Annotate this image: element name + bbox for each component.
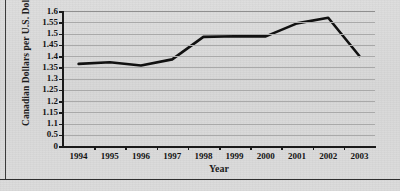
- gridline: [63, 45, 375, 46]
- y-axis-tick-label: 1.35: [18, 63, 58, 72]
- gridline: [63, 34, 375, 35]
- y-axis-tick: [59, 56, 63, 58]
- gridline: [63, 22, 375, 23]
- x-axis-tick: [313, 146, 315, 150]
- y-axis-tick: [59, 135, 63, 137]
- gridline: [63, 124, 375, 125]
- y-axis-tick-label: 1.55: [18, 18, 58, 27]
- gridline: [63, 135, 375, 136]
- y-axis-tick-label: 1.1: [18, 119, 58, 128]
- y-axis-tick: [59, 146, 63, 148]
- plot-area: [63, 11, 375, 146]
- chart-figure: Canadian Dollars per U.S. Dollar 1.61.55…: [0, 0, 400, 191]
- y-axis-tick: [59, 45, 63, 47]
- x-axis-tick: [125, 146, 127, 150]
- x-axis-tick: [188, 146, 190, 150]
- y-axis-tick-label: 1.3: [18, 74, 58, 83]
- y-axis-tick: [59, 101, 63, 103]
- x-axis-tick: [344, 146, 346, 150]
- y-axis-tick-label: 1.6: [18, 7, 58, 16]
- x-axis-title: Year: [63, 163, 375, 174]
- y-axis-tick: [59, 79, 63, 81]
- x-axis-tick: [281, 146, 283, 150]
- y-axis-tick: [59, 90, 63, 92]
- x-axis-tick-label: 2003: [339, 151, 379, 161]
- y-axis-tick-label: 0.5: [18, 130, 58, 139]
- gridline: [63, 56, 375, 57]
- y-axis-tick-label: 1.25: [18, 85, 58, 94]
- y-axis-tick-labels: 1.61.551.51.451.41.351.31.251.21.151.10.…: [14, 0, 58, 191]
- y-axis-tick-label: 1.2: [18, 97, 58, 106]
- y-axis-tick-label: 1.5: [18, 29, 58, 38]
- y-axis-tick: [59, 112, 63, 114]
- gridline: [63, 90, 375, 91]
- y-axis-tick: [59, 22, 63, 24]
- y-axis-tick: [59, 34, 63, 36]
- y-axis-tick: [59, 67, 63, 69]
- y-axis-tick: [59, 124, 63, 126]
- y-axis-tick: [59, 11, 63, 13]
- page-bottom-border: [0, 179, 400, 180]
- y-axis-tick-label: 0: [18, 142, 58, 151]
- gridline: [63, 112, 375, 113]
- x-axis-tick: [157, 146, 159, 150]
- gridline: [63, 79, 375, 80]
- gridline: [63, 67, 375, 68]
- x-axis-tick: [219, 146, 221, 150]
- x-axis-tick: [94, 146, 96, 150]
- gridline: [63, 101, 375, 102]
- y-axis-tick-label: 1.15: [18, 108, 58, 117]
- y-axis-tick-label: 1.4: [18, 52, 58, 61]
- y-axis-tick-label: 1.45: [18, 40, 58, 49]
- x-axis-tick: [250, 146, 252, 150]
- page-left-border: [5, 0, 6, 180]
